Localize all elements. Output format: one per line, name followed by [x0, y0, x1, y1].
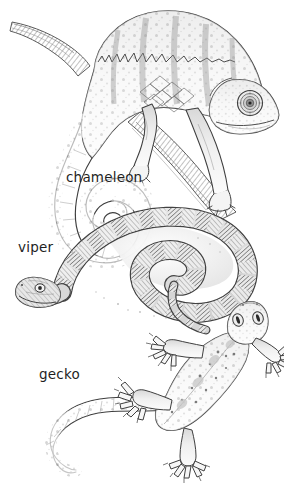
label-chameleon: chameleon	[66, 171, 142, 185]
viper-head	[16, 277, 61, 307]
gecko-limb-hind-right	[163, 428, 210, 483]
label-viper: viper	[18, 241, 53, 255]
gecko-limb-front-right	[252, 338, 284, 378]
label-gecko: gecko	[39, 368, 80, 382]
figure-gecko	[46, 302, 284, 484]
illustration-plate: chameleon viper gecko	[0, 0, 284, 498]
figure-viper	[16, 217, 248, 330]
chameleon-eye-icon	[238, 91, 263, 116]
